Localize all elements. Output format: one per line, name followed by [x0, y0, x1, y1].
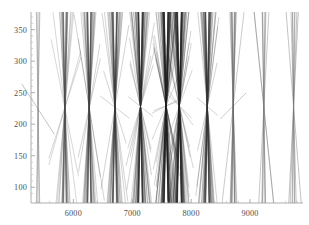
y-tick-label: 150 — [14, 152, 27, 161]
y-tick-label: 300 — [14, 57, 27, 66]
plot-canvas: 1001502002503003506000700080009000 — [0, 0, 309, 225]
pencil-cluster — [49, 12, 81, 203]
x-tick-label: 6000 — [65, 209, 82, 218]
y-tick-label: 350 — [14, 26, 27, 35]
x-tick-label: 7000 — [124, 209, 141, 218]
pencil-cluster — [220, 12, 246, 203]
chart-figure: 1001502002503003506000700080009000 — [0, 0, 309, 225]
pencil-cluster — [286, 12, 301, 203]
pencil-cluster — [126, 12, 155, 203]
pencil-cluster — [254, 12, 274, 203]
pencil-lines-group — [22, 12, 301, 203]
x-tick-label: 8000 — [183, 209, 200, 218]
y-tick-label: 200 — [14, 120, 27, 129]
y-tick-label: 100 — [14, 183, 27, 192]
pencil-cluster — [74, 12, 104, 203]
pencil-cluster — [196, 12, 219, 203]
pencil-cluster — [100, 12, 129, 203]
x-tick-label: 9000 — [241, 209, 258, 218]
pencil-cluster — [22, 12, 55, 203]
y-tick-label: 250 — [14, 89, 27, 98]
